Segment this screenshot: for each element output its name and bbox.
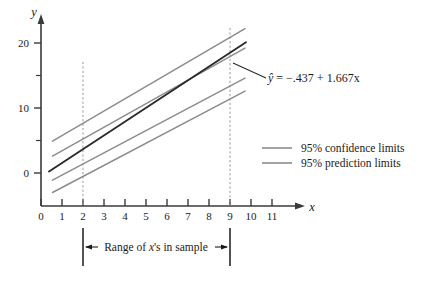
- x-tick-label-7: 7: [185, 210, 191, 222]
- equation-body: = −.437 + 1.667x: [273, 71, 359, 85]
- range-annotation-label: Range of x's in sample: [104, 241, 208, 254]
- x-tick-label-5: 5: [143, 210, 149, 222]
- x-tick-label-4: 4: [122, 210, 128, 222]
- x-tick-label-3: 3: [101, 210, 107, 222]
- y-tick-label-10: 10: [18, 102, 30, 114]
- x-tick-label-10: 10: [246, 210, 258, 222]
- confidence-limit-lower-line: [53, 78, 246, 180]
- x-tick-label-2: 2: [80, 210, 86, 222]
- x-tick-label-9: 9: [227, 210, 233, 222]
- x-tick-label-1: 1: [59, 210, 65, 222]
- range-arrow-right-head: [221, 244, 228, 249]
- range-arrow-left-head: [85, 244, 92, 249]
- y-tick-label-0: 0: [24, 167, 30, 179]
- x-axis-arrowhead: [295, 203, 305, 210]
- equation-leader-line: [233, 63, 266, 78]
- y-tick-label-20: 20: [18, 37, 30, 49]
- regression-equation-label: ŷ = −.437 + 1.667x: [267, 71, 360, 85]
- x-tick-label-0: 0: [38, 210, 44, 222]
- reference-lines-group: [83, 28, 230, 206]
- x-axis-group: 0 1 2 3 4 5 6 7 8 9 10 11 x: [38, 199, 315, 222]
- legend-label-prediction: 95% prediction limits: [301, 157, 401, 170]
- range-prefix: Range of: [104, 241, 149, 254]
- y-axis-label: y: [29, 5, 37, 19]
- x-tick-label-8: 8: [206, 210, 212, 222]
- y-axis-arrowhead: [38, 14, 45, 24]
- x-axis-label: x: [308, 200, 315, 214]
- limit-bands-group: [53, 29, 246, 193]
- prediction-limit-upper-line: [53, 29, 246, 142]
- x-tick-label-11: 11: [267, 210, 278, 222]
- legend-swatches-group: [262, 148, 292, 163]
- range-suffix: 's in sample: [154, 241, 208, 254]
- confidence-limit-upper-line: [53, 48, 246, 156]
- legend-label-confidence: 95% confidence limits: [301, 142, 405, 154]
- regression-chart-figure: 0 10 20 y 0 1 2 3 4 5 6: [0, 0, 435, 282]
- chart-canvas: 0 10 20 y 0 1 2 3 4 5 6: [0, 0, 435, 282]
- y-axis-group: 0 10 20 y: [18, 5, 44, 206]
- x-tick-label-6: 6: [164, 210, 170, 222]
